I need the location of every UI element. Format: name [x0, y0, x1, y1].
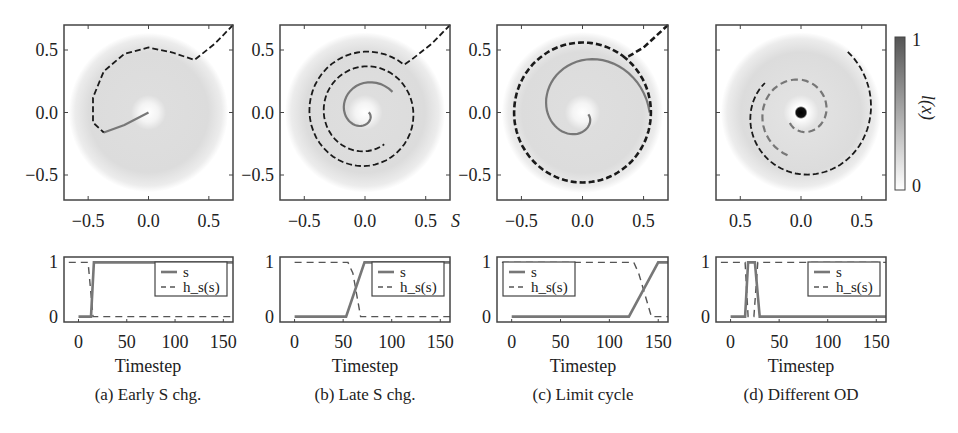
- caption-d: (d) Different OD: [701, 385, 901, 405]
- y-tick-label: 1: [482, 252, 491, 272]
- phase-plot-a: −0.50.00.50.50.0−0.5: [25, 25, 233, 231]
- x-tick-label: −0.5: [505, 211, 538, 231]
- y-tick-label: 0: [482, 307, 491, 327]
- timeseries-plot-c: sh_s(s)05010015001: [482, 252, 672, 352]
- y-tick-label: 0: [265, 307, 274, 327]
- x-tick-label: 0.0: [137, 211, 160, 231]
- x-tick-label: 0.5: [729, 211, 752, 231]
- x-tick-label: 150: [210, 332, 237, 352]
- y-tick-label: 0.5: [36, 40, 59, 60]
- y-tick-label: 0.0: [252, 103, 275, 123]
- timeseries-plot-b: sh_s(s)05010015001: [265, 252, 454, 352]
- colorbar-max-label: 1: [912, 30, 921, 50]
- x-tick-label: 0: [290, 332, 299, 352]
- caption-b: (b) Late S chg.: [265, 385, 465, 405]
- y-tick-label: 0: [49, 307, 58, 327]
- y-tick-label: 0.5: [469, 40, 492, 60]
- x-tick-label: 0.0: [790, 211, 813, 231]
- legend-entry: h_s(s): [400, 279, 437, 296]
- phase-plots: −0.50.00.50.50.0−0.5−0.50.00.50.50.0−0.5…: [25, 25, 886, 231]
- colorbar: 1 0 l(x): [895, 30, 938, 196]
- xlabel-d: Timestep: [701, 356, 901, 377]
- x-tick-label: 100: [162, 332, 189, 352]
- xlabel-a: Timestep: [48, 356, 248, 377]
- timeseries-plot-d: sh_s(s)05010015001: [701, 252, 890, 352]
- x-tick-label: −0.5: [288, 211, 321, 231]
- x-tick-label: 100: [814, 332, 841, 352]
- phase-plot-b: −0.50.00.50.50.0−0.5S: [241, 25, 460, 231]
- legend-entry: s: [531, 264, 537, 280]
- x-tick-label: 0.5: [850, 211, 873, 231]
- x-tick-label: 0.5: [414, 211, 437, 231]
- x-tick-label: 100: [378, 332, 405, 352]
- y-tick-label: 0.0: [469, 103, 492, 123]
- x-tick-label: 0.5: [632, 211, 655, 231]
- colorbar-label: l(x): [917, 95, 938, 120]
- timeseries-plots: sh_s(s)05010015001sh_s(s)05010015001sh_s…: [49, 252, 890, 352]
- x-tick-label: 0.0: [571, 211, 594, 231]
- phase-plot-c: −0.50.00.50.50.0−0.5: [458, 25, 668, 231]
- x-tick-label: 50: [118, 332, 136, 352]
- x-tick-label: 50: [552, 332, 570, 352]
- y-tick-label: 1: [49, 252, 58, 272]
- phase-plot-d: 0.50.00.5: [716, 25, 886, 231]
- x-tick-label: 150: [863, 332, 890, 352]
- xlabel-c: Timestep: [483, 356, 683, 377]
- legend-entry: s: [836, 264, 842, 280]
- x-tick-label: 150: [645, 332, 672, 352]
- y-tick-label: −0.5: [241, 165, 274, 185]
- xlabel-b: Timestep: [265, 356, 465, 377]
- x-tick-label: 0.0: [354, 211, 377, 231]
- x-tick-label: 50: [334, 332, 352, 352]
- legend-entry: s: [183, 264, 189, 280]
- x-tick-label: 0.5: [198, 211, 221, 231]
- legend-entry: h_s(s): [836, 279, 873, 296]
- x-tick-label: −0.5: [72, 211, 105, 231]
- legend-entry: h_s(s): [531, 279, 568, 296]
- y-tick-label: 0.0: [36, 103, 59, 123]
- y-tick-label: 1: [701, 252, 710, 272]
- y-tick-label: 1: [265, 252, 274, 272]
- x-tick-label: 100: [596, 332, 623, 352]
- legend-entry: s: [400, 264, 406, 280]
- y-tick-label: 0: [701, 307, 710, 327]
- x-tick-label: 0: [74, 332, 83, 352]
- x-tick-label: 50: [770, 332, 788, 352]
- x-tick-label: 0: [726, 332, 735, 352]
- caption-a: (a) Early S chg.: [48, 385, 248, 405]
- y-tick-label: −0.5: [458, 165, 491, 185]
- x-tick-label: 0: [507, 332, 516, 352]
- colorbar-min-label: 0: [912, 176, 921, 196]
- timeseries-plot-a: sh_s(s)05010015001: [49, 252, 237, 352]
- y-tick-label: 0.5: [252, 40, 275, 60]
- legend-entry: h_s(s): [183, 279, 220, 296]
- x-tick-label: 150: [427, 332, 454, 352]
- y-tick-label: −0.5: [25, 165, 58, 185]
- phase-axis-label: S: [451, 211, 460, 231]
- caption-c: (c) Limit cycle: [483, 385, 683, 405]
